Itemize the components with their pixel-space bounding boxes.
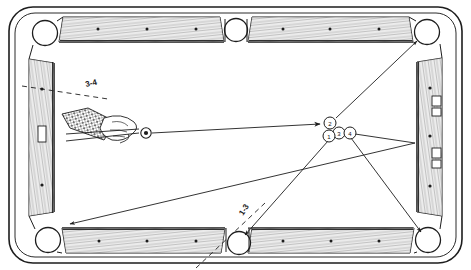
- ball-2[interactable]: 2: [324, 117, 336, 129]
- diamond-bottom-6: [378, 240, 381, 243]
- bottom-right-corner-pocket[interactable]: [416, 228, 441, 253]
- diamond-top-5: [329, 28, 332, 31]
- diamond-top-1: [97, 28, 100, 31]
- diamond-bottom-2: [146, 240, 149, 243]
- diamond-top-4: [282, 28, 285, 31]
- rail-plate-upper: [432, 96, 441, 116]
- cue-ball[interactable]: [141, 128, 151, 138]
- rail-top-left: [59, 17, 224, 42]
- diamond-left-2: [40, 183, 43, 186]
- rail-plate-left: [38, 126, 46, 142]
- rail-left: [29, 59, 54, 216]
- table-frame: [9, 7, 462, 263]
- diamond-top-6: [378, 28, 381, 31]
- ball-4[interactable]: 4: [344, 127, 356, 139]
- billiards-diagram-canvas: 2 3 4 1 3-4 1-3: [0, 0, 471, 270]
- diamond-bottom-4: [282, 240, 285, 243]
- diamond-bottom-5: [330, 240, 333, 243]
- bottom-left-corner-pocket[interactable]: [36, 228, 61, 253]
- diamond-right-1: [428, 86, 431, 89]
- top-left-corner-pocket[interactable]: [33, 21, 58, 46]
- diamond-top-2: [146, 28, 149, 31]
- table-diagram-svg: 2 3 4 1 3-4 1-3: [0, 0, 471, 270]
- top-right-corner-pocket[interactable]: [415, 20, 440, 45]
- diamond-bottom-1: [98, 240, 101, 243]
- table-outer-edge: [9, 7, 462, 263]
- diamond-top-3: [195, 28, 198, 31]
- diamond-right-3: [428, 184, 431, 187]
- rail-bottom-left: [62, 228, 225, 253]
- top-center-side-pocket[interactable]: [225, 19, 248, 42]
- diamond-bottom-3: [195, 240, 198, 243]
- diamond-right-2: [428, 134, 431, 137]
- ball-1[interactable]: 1: [323, 130, 335, 142]
- rail-plate-lower: [432, 148, 441, 168]
